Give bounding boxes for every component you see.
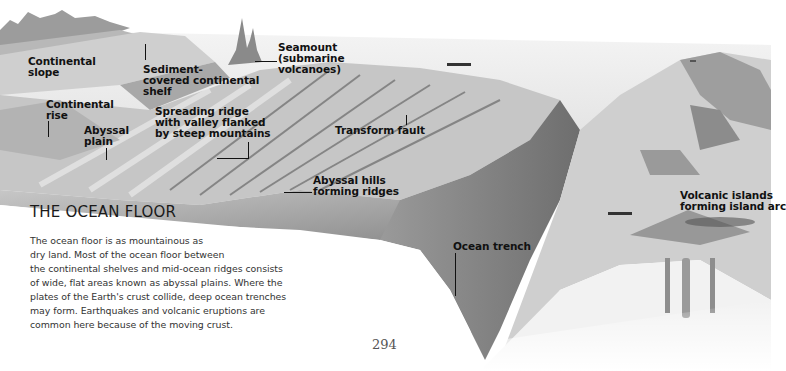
leader-line — [406, 115, 407, 125]
label-spreading-ridge: Spreading ridge with valley flanked by s… — [155, 106, 270, 139]
label-ocean-trench: Ocean trench — [453, 241, 531, 252]
label-volcanic-islands: Volcanic islands forming island arc — [680, 190, 786, 212]
label-abyssal-plain: Abyssal plain — [84, 125, 129, 147]
body-text-line: The ocean floor is as mountainous as — [30, 235, 203, 246]
leader-line — [217, 158, 249, 159]
leader-line — [48, 121, 49, 137]
label-transform-fault: Transform fault — [335, 125, 425, 136]
leader-line — [248, 142, 249, 159]
label-seamount: Seamount (submarine volcanoes) — [278, 42, 344, 75]
body-text-line: dry land. Most of the ocean floor betwee… — [30, 249, 224, 260]
page-number: 294 — [372, 337, 397, 352]
body-text-line: the continental shelves and mid-ocean ri… — [30, 263, 283, 274]
body-text-line: may form. Earthquakes and volcanic erupt… — [30, 305, 265, 316]
leader-line — [255, 61, 277, 62]
leader-line — [284, 192, 312, 193]
label-abyssal-hills: Abyssal hills forming ridges — [313, 175, 399, 197]
ship-icon — [447, 63, 471, 66]
page-title: THE OCEAN FLOOR — [30, 203, 176, 221]
body-text-line: of wide, flat areas known as abyssal pla… — [30, 277, 282, 288]
label-sediment-shelf: Sediment- covered continental shelf — [143, 64, 259, 97]
body-text-line: common here because of the moving crust. — [30, 319, 233, 330]
label-continental-rise: Continental rise — [46, 99, 114, 121]
label-continental-slope: Continental slope — [28, 56, 96, 78]
body-text-line: plates of the Earth's crust collide, dee… — [30, 291, 286, 302]
leader-line — [455, 253, 456, 296]
leader-line — [145, 44, 146, 60]
leader-line — [106, 148, 107, 160]
